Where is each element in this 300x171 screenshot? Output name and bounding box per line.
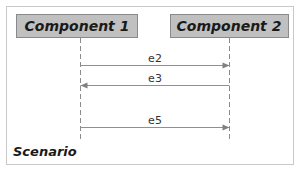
message-label: e2 xyxy=(148,52,162,65)
message-label: e3 xyxy=(148,72,162,85)
scenario-label: Scenario xyxy=(13,144,77,159)
component-2: Component 2 xyxy=(171,15,289,38)
sequence-diagram: Component 1 Component 2 e2e3e5 Scenario xyxy=(0,0,300,171)
component-1-label: Component 1 xyxy=(25,18,130,34)
message-label: e5 xyxy=(148,114,162,127)
component-2-label: Component 2 xyxy=(177,18,282,34)
component-1: Component 1 xyxy=(17,15,138,38)
